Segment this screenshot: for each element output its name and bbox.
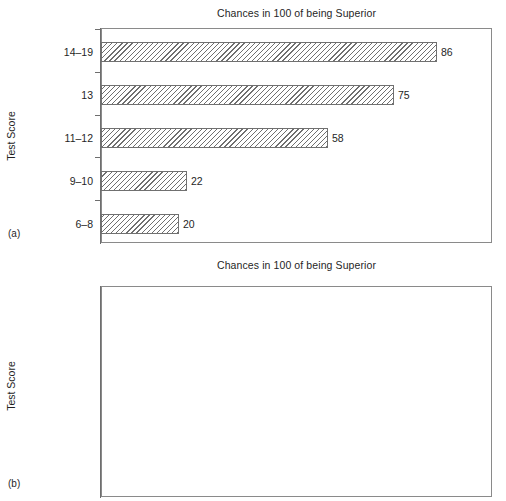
y-axis-tick (95, 72, 100, 73)
bar (101, 42, 437, 62)
bar-value-label: 22 (191, 176, 203, 187)
y-axis-label-b: Test Score (5, 356, 17, 416)
y-axis-tick (95, 29, 100, 30)
y-axis-tick (95, 115, 100, 116)
panel-tag-a: (a) (8, 228, 20, 239)
y-axis-tick-label: 9–10 (0, 176, 93, 187)
y-axis-tick (95, 200, 100, 201)
bar-value-label: 75 (398, 90, 410, 101)
y-axis-tick-label: 14–19 (0, 47, 93, 58)
bar (101, 214, 179, 234)
panel-tag-b: (b) (8, 478, 20, 489)
chart-panel-a: Chances in 100 of being Superior Test Sc… (0, 0, 506, 252)
bar-value-label: 20 (183, 219, 195, 230)
chart-panel-b: Chances in 100 of being Superior Test Sc… (0, 252, 506, 501)
plot-area-b (101, 286, 492, 497)
bar-value-label: 58 (332, 133, 344, 144)
chart-title-b: Chances in 100 of being Superior (101, 259, 492, 271)
bar-value-label: 86 (441, 47, 453, 58)
bar (101, 128, 328, 148)
chart-title-a: Chances in 100 of being Superior (101, 7, 492, 19)
y-axis-tick-label: 11–12 (0, 133, 93, 144)
bar (101, 171, 187, 191)
bar (101, 85, 394, 105)
y-axis-tick (95, 157, 100, 158)
y-axis-tick-label: 13 (0, 90, 93, 101)
y-axis-spine-b (100, 286, 101, 498)
